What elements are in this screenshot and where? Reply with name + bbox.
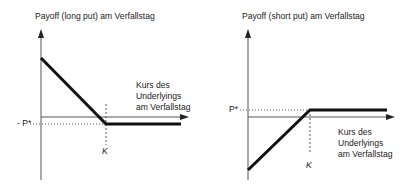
x-axis-arrow-icon xyxy=(386,114,395,120)
y-axis-arrow-icon xyxy=(245,29,251,38)
strike-label: K xyxy=(102,146,108,156)
premium-label: P* xyxy=(229,104,238,114)
premium-label: - P* xyxy=(17,118,31,128)
strike-label: K xyxy=(306,160,312,170)
short-put-xlabel: Kurs des Underlyings am Verfallstag xyxy=(338,127,392,160)
long-put-xlabel: Kurs des Underlyings am Verfallstag xyxy=(136,80,190,113)
x-axis-arrow-icon xyxy=(180,114,189,120)
long-put-diagram: Payoff (long put) am Verfallstag Kurs de… xyxy=(0,0,210,186)
y-axis-arrow-icon xyxy=(38,29,44,38)
short-put-diagram: Payoff (short put) am Verfallstag P* Kur… xyxy=(210,0,418,186)
